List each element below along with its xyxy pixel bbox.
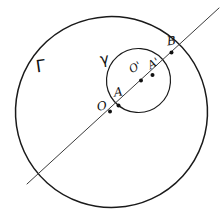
point-dot-A <box>117 104 121 108</box>
point-dot-A-prime <box>151 73 155 77</box>
label-minor-circle: γ <box>99 51 110 67</box>
geometry-diagram: Γ γ O A O' A' B <box>0 0 223 218</box>
label-point-B: B <box>166 34 176 47</box>
geometry-canvas <box>0 0 223 218</box>
label-point-A: A <box>113 85 123 98</box>
point-dot-O <box>108 110 112 114</box>
label-point-O: O <box>96 99 107 112</box>
minor-circle-gamma <box>104 46 172 114</box>
point-dot-B <box>170 51 174 55</box>
point-dot-O-prime <box>139 79 143 83</box>
